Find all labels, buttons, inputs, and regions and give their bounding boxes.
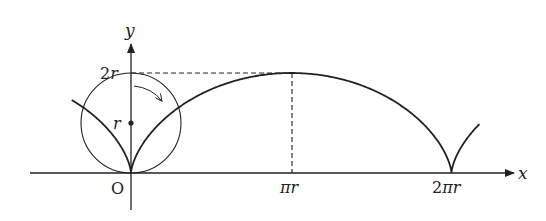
rotation-arrow-icon	[134, 86, 162, 101]
tick-label-pi-r: πr	[279, 178, 300, 197]
cycloid-diagram: y x O 2r r πr 2πr	[0, 0, 546, 221]
x-axis-label: x	[518, 163, 528, 183]
tick-label-r: r	[113, 114, 122, 133]
origin-label: O	[111, 179, 124, 198]
tick-label-2r: 2r	[100, 64, 119, 83]
tick-label-2pi-r: 2πr	[432, 178, 462, 197]
y-axis-label: y	[124, 20, 135, 40]
circle-center-point	[128, 120, 133, 125]
